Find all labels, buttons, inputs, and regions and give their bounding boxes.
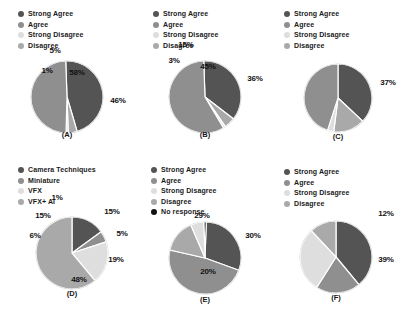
panel-c: Strong AgreeAgreeStrong DisagreeDisagree… [270,0,405,155]
pie-slice-label: 58% [69,68,84,77]
pie-slice-label: 15% [35,211,50,220]
legend-swatch-icon [284,32,290,38]
legend-item-label: Strong Agree [161,165,206,176]
pie-slice-label: 19% [108,255,123,264]
legend-item: Strong Agree [153,9,219,20]
legend-item-label: Strong Disagree [294,30,350,41]
pie-slice-label: 15% [178,40,193,49]
legend-item: Disagree [151,197,217,208]
legend-item: Agree [151,176,217,187]
caption-a: (A) [62,130,72,139]
legend-item: Camera Techniques [18,165,96,176]
panel-d: Camera TechniquesMiniatureVFXVFX+ AI 15%… [0,155,135,320]
legend-swatch-icon [284,190,290,196]
legend-item: Agree [18,20,84,31]
legend-item: Strong Agree [284,9,350,20]
legend-item: Disagree [284,41,350,52]
legend-item: Strong Agree [18,9,84,20]
pie-slice-label: 45% [200,62,215,71]
pie-slice-label: 29% [194,211,209,220]
pie-slice-label: 39% [378,255,393,264]
legend-swatch-icon [18,32,24,38]
legend-swatch-icon [284,169,290,175]
legend-swatch-icon [284,180,290,186]
pie-svg [169,222,241,294]
legend-item-label: Strong Agree [163,9,208,20]
legend-item: Strong Disagree [18,30,84,41]
pie-slice-label: 1% [41,66,52,75]
legend-swatch-icon [151,167,157,173]
caption-c: (C) [333,132,343,141]
pie-chart-f: 39%20%29%12% [300,221,372,293]
pie-slice-label: 6% [29,231,40,240]
pie-slice-label: 37% [380,78,395,87]
legend-swatch-icon [284,43,290,49]
legend-item-label: Agree [163,20,183,31]
legend-swatch-icon [151,199,157,205]
pie [304,64,372,132]
legend-swatch-icon [18,199,24,205]
legend-swatch-icon [153,32,159,38]
legend-item-label: Agree [161,176,181,187]
legend-item-label: Camera Techniques [28,165,96,176]
legend-swatch-icon [18,11,24,17]
legend-swatch-icon [151,209,157,215]
panel-b: Strong AgreeAgreeStrong DisagreeDisagree… [135,0,270,155]
pie [300,221,372,293]
caption-d: (D) [67,289,77,298]
pie-slice-label: 3% [168,56,179,65]
legend-swatch-icon [18,167,24,173]
legend-item-label: VFX [28,186,42,197]
pie-chart-grid: Strong AgreeAgreeStrong DisagreeDisagree… [0,0,405,320]
caption-e: (E) [200,295,210,304]
legend-item-label: Disagree [294,199,324,210]
legend-item: Disagree [284,199,350,210]
panel-f: Strong AgreeAgreeStrong DisagreeDisagree… [270,155,405,320]
panel-e: Strong AgreeAgreeStrong DisagreeDisagree… [135,155,270,320]
legend-swatch-icon [151,188,157,194]
pie-slice-label: 5% [49,46,60,55]
pie-slice-label: 20% [200,267,215,276]
pie [169,61,241,133]
legend-swatch-icon [284,201,290,207]
legend-swatch-icon [18,43,24,49]
pie [169,222,241,294]
legend-swatch-icon [153,43,159,49]
legend-item: Strong Disagree [284,30,350,41]
legend-swatch-icon [18,178,24,184]
legend-swatch-icon [284,22,290,28]
legend-item-label: Agree [28,20,48,31]
pie-svg [169,61,241,133]
pie-chart-c: 37%45%3%15% [304,64,372,132]
legend-item: Agree [284,178,350,189]
legend-swatch-icon [18,22,24,28]
legend-item: Agree [284,20,350,31]
legend-item: Miniature [18,176,96,187]
caption-b: (B) [200,130,210,139]
legend-item-label: Strong Agree [294,167,339,178]
legend-item-label: Strong Disagree [294,188,350,199]
legend-item: Agree [153,20,219,31]
legend-item-label: Disagree [161,197,191,208]
legend-item-label: Strong Disagree [161,186,217,197]
pie-slice-label: 46% [110,96,125,105]
legend-item-label: Disagree [294,41,324,52]
pie-chart-b: 36%58%1%5% [169,61,241,133]
legend-c: Strong AgreeAgreeStrong DisagreeDisagree [284,9,350,51]
legend-item-label: Agree [294,20,314,31]
legend-item-label: Strong Agree [28,9,73,20]
legend-item-label: Strong Agree [294,9,339,20]
legend-swatch-icon [284,11,290,17]
pie-slice-label: 15% [104,207,119,216]
legend-item: Strong Disagree [151,186,217,197]
legend-swatch-icon [153,22,159,28]
legend-item-label: Strong Disagree [28,30,84,41]
pie-svg [300,221,372,293]
pie-svg [304,64,372,132]
pie-slice-label: 12% [378,209,393,218]
panel-a: Strong AgreeAgreeStrong DisagreeDisagree… [0,0,135,155]
pie-slice-label: 1% [51,193,62,202]
pie-slice-label: 36% [247,74,262,83]
legend-item: Strong Agree [151,165,217,176]
pie-slice-label: 48% [71,275,86,284]
